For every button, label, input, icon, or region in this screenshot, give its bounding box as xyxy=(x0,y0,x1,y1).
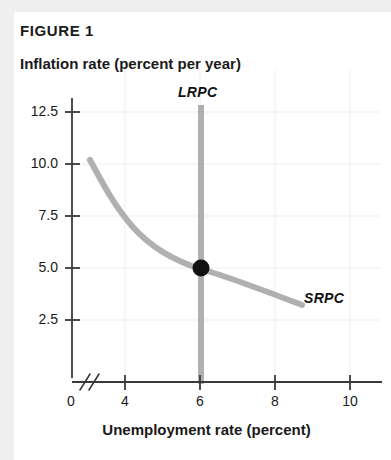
gridlines-vertical xyxy=(125,70,350,382)
x-tick-label-10: 10 xyxy=(337,393,363,409)
gridlines-horizontal xyxy=(72,112,380,320)
figure-root: FIGURE 1 Inflation rate (percent per yea… xyxy=(0,0,391,460)
equilibrium-point xyxy=(193,260,210,277)
y-tick-label-10-0: 10.0 xyxy=(10,155,58,171)
x-tick-label-0: 0 xyxy=(58,393,84,409)
srpc-curve xyxy=(90,160,302,305)
y-tick-label-12-5: 12.5 xyxy=(10,103,58,119)
x-tick-label-6: 6 xyxy=(187,393,213,409)
x-axis-title: Unemployment rate (percent) xyxy=(0,421,391,438)
y-tick-label-7-5: 7.5 xyxy=(10,207,58,223)
y-tick-label-5-0: 5.0 xyxy=(10,259,58,275)
x-tick-label-4: 4 xyxy=(112,393,138,409)
y-tick-label-2-5: 2.5 xyxy=(10,311,58,327)
phillips-curve-plot xyxy=(0,0,391,460)
x-tick-label-8: 8 xyxy=(262,393,288,409)
lrpc-curve-label: LRPC xyxy=(178,84,217,100)
srpc-curve-label: SRPC xyxy=(304,290,344,306)
